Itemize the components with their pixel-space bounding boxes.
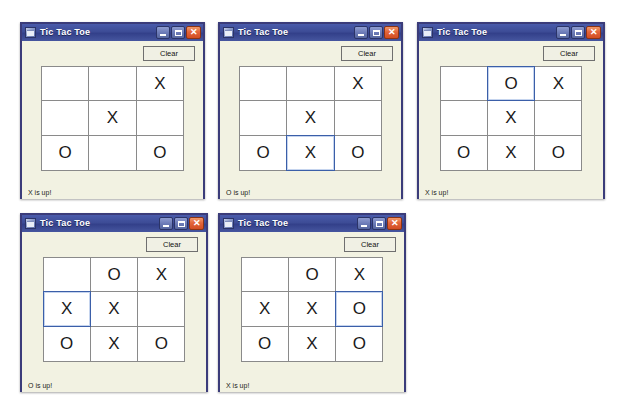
board-cell[interactable] (239, 66, 287, 102)
minimize-button[interactable] (354, 26, 368, 39)
status-text: X is up! (226, 382, 249, 389)
title-bar[interactable]: Tic Tac Toe✕ (218, 213, 406, 232)
board-cell[interactable] (137, 291, 185, 327)
board-cell[interactable]: X (88, 100, 136, 136)
board-cell[interactable]: X (90, 326, 138, 362)
form-window-icon (25, 218, 36, 229)
maximize-button[interactable] (171, 26, 185, 39)
clear-button[interactable]: Clear (344, 237, 396, 252)
minimize-button[interactable] (357, 217, 371, 230)
minimize-icon (160, 34, 166, 36)
board-cell[interactable]: X (286, 135, 334, 171)
minimize-button[interactable] (159, 217, 173, 230)
window-controls: ✕ (357, 217, 402, 230)
board-cell[interactable] (239, 100, 287, 136)
board-cell[interactable]: X (241, 291, 289, 327)
window-title: Tic Tac Toe (40, 24, 156, 41)
board-cell[interactable]: X (534, 66, 582, 102)
close-button[interactable]: ✕ (586, 26, 601, 39)
board-cell[interactable]: O (440, 135, 488, 171)
close-button[interactable]: ✕ (189, 217, 204, 230)
tictactoe-window: Tic Tac Toe✕ClearXXOOX is up! (20, 22, 205, 199)
board-cell[interactable]: O (137, 326, 185, 362)
board-cell[interactable]: X (487, 100, 535, 136)
board-cell[interactable]: O (239, 135, 287, 171)
window-title: Tic Tac Toe (437, 24, 556, 41)
board-cell[interactable]: X (136, 66, 184, 102)
board-cell[interactable]: X (335, 257, 383, 293)
board-cell[interactable]: O (534, 135, 582, 171)
client-area: ClearOXXXOXOO is up! (22, 232, 206, 392)
board-cell[interactable] (440, 66, 488, 102)
board-cell[interactable]: X (137, 257, 185, 293)
board-cell[interactable] (286, 66, 334, 102)
board-cell[interactable]: X (487, 135, 535, 171)
tic-tac-toe-board: OXXXOXO (43, 257, 185, 361)
board-cell[interactable]: O (288, 257, 336, 293)
close-icon: ✕ (385, 27, 398, 38)
clear-button[interactable]: Clear (143, 46, 195, 61)
board-cell[interactable] (241, 257, 289, 293)
board-cell[interactable]: O (335, 291, 383, 327)
board-cell[interactable] (334, 100, 382, 136)
clear-button[interactable]: Clear (146, 237, 198, 252)
maximize-icon (373, 30, 380, 36)
board-cell[interactable] (88, 66, 136, 102)
minimize-icon (560, 34, 566, 36)
window-controls: ✕ (156, 26, 201, 39)
board-cell[interactable]: O (334, 135, 382, 171)
client-area: ClearOXXXOOXOX is up! (220, 232, 404, 392)
clear-button[interactable]: Clear (543, 46, 595, 61)
board-cell[interactable]: X (334, 66, 382, 102)
close-button[interactable]: ✕ (186, 26, 201, 39)
title-bar[interactable]: Tic Tac Toe✕ (218, 22, 403, 41)
form-window-icon (223, 27, 234, 38)
tictactoe-window: Tic Tac Toe✕ClearXXOXOO is up! (218, 22, 403, 199)
tictactoe-window: Tic Tac Toe✕ClearOXXOXOX is up! (417, 22, 605, 199)
minimize-button[interactable] (156, 26, 170, 39)
maximize-button[interactable] (372, 217, 386, 230)
title-bar[interactable]: Tic Tac Toe✕ (20, 213, 208, 232)
maximize-button[interactable] (571, 26, 585, 39)
close-icon: ✕ (587, 27, 600, 38)
board-cell[interactable]: O (41, 135, 89, 171)
board-cell[interactable] (43, 257, 91, 293)
board-cell[interactable]: X (90, 291, 138, 327)
maximize-button[interactable] (174, 217, 188, 230)
board-cell[interactable]: X (288, 326, 336, 362)
board-cell[interactable]: O (43, 326, 91, 362)
tic-tac-toe-board: OXXXOOXO (241, 257, 383, 361)
board-cell[interactable] (41, 100, 89, 136)
close-button[interactable]: ✕ (384, 26, 399, 39)
close-button[interactable]: ✕ (387, 217, 402, 230)
board-cell[interactable]: O (241, 326, 289, 362)
screenshot-canvas: Tic Tac Toe✕ClearXXOOX is up!Tic Tac Toe… (0, 0, 624, 415)
close-icon: ✕ (388, 218, 401, 229)
status-text: O is up! (226, 189, 250, 196)
maximize-icon (175, 30, 182, 36)
maximize-button[interactable] (369, 26, 383, 39)
board-cell[interactable]: O (90, 257, 138, 293)
minimize-icon (361, 225, 367, 227)
client-area: ClearXXOXOO is up! (220, 41, 401, 199)
board-cell[interactable] (440, 100, 488, 136)
status-text: X is up! (28, 189, 51, 196)
board-cell[interactable] (136, 100, 184, 136)
maximize-icon (178, 221, 185, 227)
board-cell[interactable] (88, 135, 136, 171)
tictactoe-window: Tic Tac Toe✕ClearOXXXOOXOX is up! (218, 213, 406, 392)
clear-button[interactable]: Clear (341, 46, 393, 61)
board-cell[interactable]: X (288, 291, 336, 327)
board-cell[interactable]: X (286, 100, 334, 136)
board-cell[interactable]: X (43, 291, 91, 327)
board-cell[interactable]: O (335, 326, 383, 362)
minimize-button[interactable] (556, 26, 570, 39)
window-controls: ✕ (556, 26, 601, 39)
board-cell[interactable]: O (487, 66, 535, 102)
board-cell[interactable] (534, 100, 582, 136)
title-bar[interactable]: Tic Tac Toe✕ (417, 22, 605, 41)
title-bar[interactable]: Tic Tac Toe✕ (20, 22, 205, 41)
board-cell[interactable]: O (136, 135, 184, 171)
client-area: ClearXXOOX is up! (22, 41, 203, 199)
board-cell[interactable] (41, 66, 89, 102)
